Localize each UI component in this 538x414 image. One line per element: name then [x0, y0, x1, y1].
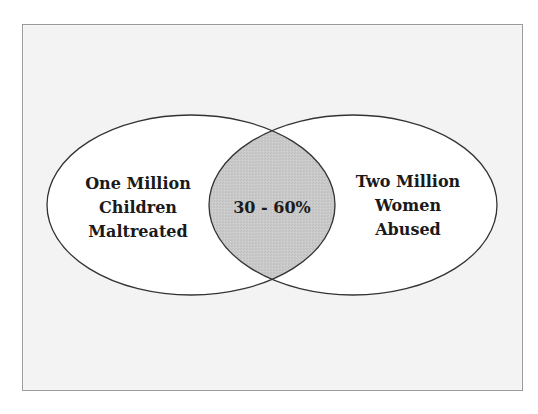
left-label-line-1: One Million: [85, 174, 191, 193]
left-set-label: One Million Children Maltreated: [85, 174, 191, 241]
right-label-line-2: Women: [374, 196, 441, 215]
overlap-label: 30 - 60%: [233, 198, 311, 217]
right-label-line-3: Abused: [374, 220, 441, 239]
left-label-line-2: Children: [99, 198, 177, 217]
left-label-line-3: Maltreated: [88, 222, 187, 241]
venn-diagram: One Million Children Maltreated Two Mill…: [0, 0, 538, 414]
right-label-line-1: Two Million: [356, 172, 461, 191]
